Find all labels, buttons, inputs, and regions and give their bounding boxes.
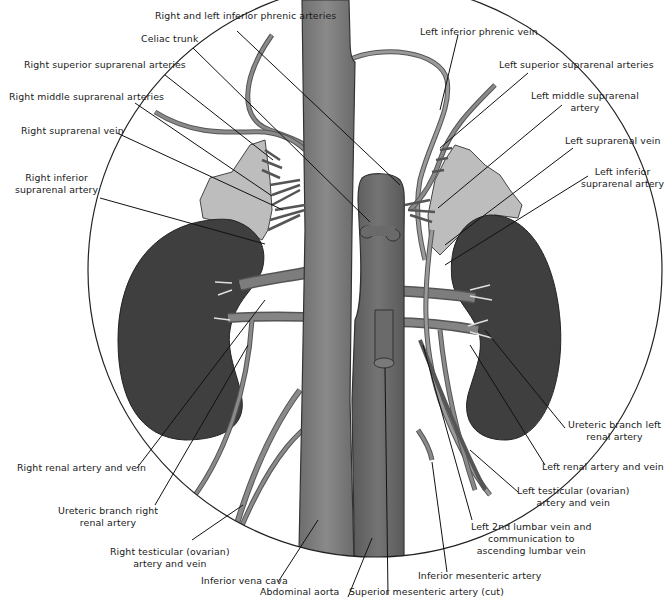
label-inferior-phrenic-arteries: Right and left inferior phrenic arteries: [155, 10, 336, 22]
label-right-inferior-suprarenal-artery: Right inferior suprarenal artery: [15, 172, 98, 196]
label-left-2nd-lumbar-vein: Left 2nd lumbar vein and communication t…: [471, 521, 592, 557]
label-inferior-mesenteric-artery: Inferior mesenteric artery: [418, 570, 541, 582]
label-left-suprarenal-vein: Left suprarenal vein: [565, 135, 661, 147]
label-celiac-trunk: Celiac trunk: [141, 33, 198, 45]
label-superior-mesenteric-artery-cut: Superior mesenteric artery (cut): [349, 586, 504, 598]
label-inferior-vena-cava: Inferior vena cava: [201, 575, 288, 587]
superior-mesenteric-artery-cut-end: [374, 358, 394, 368]
label-left-inferior-suprarenal-artery: Left inferior suprarenal artery: [581, 166, 664, 190]
label-left-testicular: Left testicular (ovarian) artery and vei…: [517, 485, 630, 509]
label-ureteric-branch-right: Ureteric branch right renal artery: [58, 505, 158, 529]
label-right-middle-suprarenal-arteries: Right middle suprarenal arteries: [9, 91, 164, 103]
inferior-vena-cava-shape: [298, 0, 355, 600]
label-right-superior-suprarenal-arteries: Right superior suprarenal arteries: [24, 59, 186, 71]
label-right-testicular: Right testicular (ovarian) artery and ve…: [110, 546, 230, 570]
label-right-suprarenal-vein: Right suprarenal vein: [21, 125, 124, 137]
label-left-renal-artery-vein: Left renal artery and vein: [542, 461, 664, 473]
label-right-renal-artery-vein: Right renal artery and vein: [17, 462, 146, 474]
label-left-middle-suprarenal-artery: Left middle suprarenal artery: [531, 90, 639, 114]
anatomy-diagram: Right and left inferior phrenic arteries…: [0, 0, 665, 607]
label-left-inferior-phrenic-vein: Left inferior phrenic vein: [420, 26, 538, 38]
label-left-superior-suprarenal-arteries: Left superior suprarenal arteries: [499, 59, 654, 71]
label-ureteric-branch-left: Ureteric branch left renal artery: [568, 419, 661, 443]
label-abdominal-aorta: Abdominal aorta: [260, 586, 339, 598]
